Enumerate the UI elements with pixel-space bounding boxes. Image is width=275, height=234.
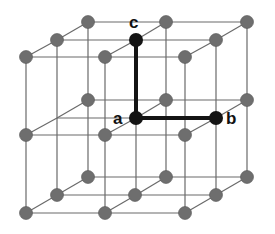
label-b: b — [226, 109, 236, 128]
lattice-atom — [99, 129, 112, 142]
highlighted-atoms — [129, 33, 223, 125]
atom-c — [129, 33, 143, 47]
lattice-atom — [82, 16, 95, 29]
lattice-atom — [51, 34, 64, 47]
lattice-atom — [20, 51, 33, 64]
lattice-atom — [51, 189, 64, 202]
lattice-atom — [82, 94, 95, 107]
lattice-atom — [129, 189, 142, 202]
lattice-atom — [160, 16, 173, 29]
lattice-vectors — [136, 40, 216, 118]
vector-labels: a b c — [113, 13, 236, 128]
lattice-atom — [179, 51, 192, 64]
atom-b — [209, 111, 223, 125]
lattice-svg: a b c — [0, 0, 275, 234]
lattice-atom — [20, 129, 33, 142]
label-c: c — [129, 13, 138, 32]
lattice-atom — [82, 171, 95, 184]
lattice-atom — [99, 207, 112, 220]
lattice-atom — [20, 207, 33, 220]
lattice-diagram: a b c — [0, 0, 275, 234]
lattice-atom — [210, 189, 223, 202]
lattice-atom — [179, 207, 192, 220]
lattice-atom — [210, 34, 223, 47]
label-a: a — [113, 109, 123, 128]
lattice-atom — [241, 16, 254, 29]
atom-a — [129, 111, 143, 125]
lattice-atom — [160, 94, 173, 107]
lattice-atom — [241, 94, 254, 107]
lattice-atom — [160, 171, 173, 184]
lattice-atom — [99, 51, 112, 64]
lattice-atom — [179, 129, 192, 142]
lattice-atom — [241, 171, 254, 184]
